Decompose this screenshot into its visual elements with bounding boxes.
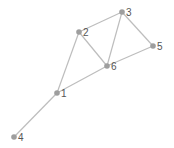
node-1: 1 [54,88,67,99]
node-2: 2 [76,27,89,38]
node-label: 2 [83,27,89,38]
node-label: 3 [126,7,132,18]
node-5: 5 [150,41,163,52]
node-6: 6 [104,61,117,72]
node-marker [11,134,17,140]
node-marker [54,90,60,96]
node-marker [119,9,125,15]
node-marker [150,43,156,49]
node-label: 4 [18,132,24,143]
node-marker [104,63,110,69]
edge-1-2 [57,32,79,93]
node-label: 6 [111,61,117,72]
node-label: 5 [157,41,163,52]
node-label: 1 [61,88,67,99]
network-graph: 123456 [0,0,174,148]
edge-1-4 [14,93,57,137]
nodes-layer: 123456 [11,7,163,143]
node-marker [76,29,82,35]
node-4: 4 [11,132,24,143]
edge-3-6 [107,12,122,66]
